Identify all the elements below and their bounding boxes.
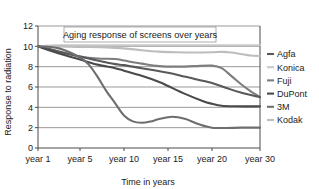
legend-label-agfa: Agfa (277, 49, 296, 59)
y-axis-title: Response to radiation (3, 48, 13, 136)
chart-legend: AgfaKonicaFujiDuPont3MKodak (267, 49, 308, 125)
x-tick-label: year 5 (67, 154, 92, 164)
legend-label-kodak: Kodak (277, 115, 303, 125)
legend-label-3m: 3M (277, 102, 290, 112)
y-tick-label: 8 (28, 62, 33, 72)
y-tick-label: 10 (23, 42, 33, 52)
y-tick-label: 6 (28, 82, 33, 92)
chart-container: 024681012 year 1year 5year 10year 15year… (0, 0, 319, 189)
x-tick-label: year 20 (197, 154, 227, 164)
y-tick-label: 2 (28, 123, 33, 133)
series-lines (38, 45, 260, 128)
legend-label-konica: Konica (277, 63, 305, 73)
chart-canvas: 024681012 year 1year 5year 10year 15year… (0, 0, 319, 189)
y-tick-label: 4 (28, 103, 33, 113)
x-axis-title: Time in years (121, 177, 175, 187)
x-tick-label: year 30 (245, 154, 275, 164)
chart-title-box: Aging response of screens over years (63, 27, 218, 42)
legend-label-dupont: DuPont (277, 89, 308, 99)
x-tick-label: year 1 (25, 154, 50, 164)
y-tick-labels: 024681012 (23, 21, 33, 153)
y-tick-label: 0 (28, 143, 33, 153)
line-chart: 024681012 year 1year 5year 10year 15year… (0, 0, 319, 189)
x-tick-label: year 10 (109, 154, 139, 164)
legend-label-fuji: Fuji (277, 76, 292, 86)
chart-title: Aging response of screens over years (63, 30, 218, 40)
x-tick-labels: year 1year 5year 10year 15year 20year 30 (25, 154, 275, 164)
y-tick-label: 12 (23, 21, 33, 31)
x-tick-label: year 15 (153, 154, 183, 164)
